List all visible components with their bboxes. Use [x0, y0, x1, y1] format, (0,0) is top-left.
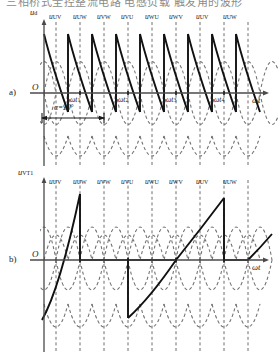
panel-a-alpha-annotation: α=90° [54, 104, 74, 112]
clipped-caption-text: 三相桥式全控整流电路 电感负载 触发角的波形 [6, 0, 243, 7]
panel-a-gridlines [56, 22, 248, 166]
panel-b-canvas [0, 168, 278, 354]
panel-a-tick-label-1: ωt2 [118, 96, 128, 104]
panel-b-x-axis-label: ωt [252, 263, 260, 272]
panel-a-canvas [0, 8, 278, 168]
panel-a: a) O ud ωt uUV uUW uVW uVU uWU uWV uUV [0, 8, 278, 168]
panel-a-wave-label-2: uVW [97, 13, 111, 21]
panel-a-wave-label-6: uUV [196, 13, 208, 21]
panel-a-wave-label-1: uUW [73, 13, 87, 21]
panel-a-x-axis-label: ωt [252, 96, 260, 105]
panel-a-label: a) [9, 88, 16, 97]
panel-a-wave-label-7: uUW [223, 13, 237, 21]
panel-b-wave-label-1: uUW [73, 178, 87, 186]
panel-a-wave-label-0: uUV [49, 13, 61, 21]
panel-a-wave-label-4: uWU [145, 13, 159, 21]
panel-b-wave-label-6: uUV [196, 178, 208, 186]
panel-a-y-axis-label: ud [30, 8, 37, 17]
panel-b-wave-label-7: uUW [223, 178, 237, 186]
panel-b-wave-label-3: uVU [121, 178, 133, 186]
panel-a-wave-label-3: uVU [121, 13, 133, 21]
panel-b-y-axis-label: uVT1 [18, 168, 33, 177]
panel-b-origin-label: O [32, 250, 39, 259]
panel-a-tick-label-3: ωt4 [214, 96, 224, 104]
panel-b-dashed-sinusoids [32, 180, 272, 352]
panel-b-label: b) [9, 255, 17, 264]
panel-a-wave-label-5: uWV [169, 13, 183, 21]
panel-b-wave-label-4: uWU [145, 178, 159, 186]
clipped-top-caption: 三相桥式全控整流电路 电感负载 触发角的波形 [0, 0, 278, 7]
panel-a-tick-label-2: ωt3 [166, 96, 176, 104]
panel-b-wave-label-5: uWV [169, 178, 183, 186]
panel-a-axes [30, 19, 269, 166]
panel-b: b) O uVT1 ωt uUV uUW uVW uVU uWU uWV uUV [0, 168, 278, 354]
panel-b-uvt1-waveform [42, 194, 272, 320]
panel-b-wave-label-2: uVW [97, 178, 111, 186]
panel-a-origin-label: O [32, 83, 39, 92]
panel-b-wave-label-0: uUV [49, 178, 61, 186]
